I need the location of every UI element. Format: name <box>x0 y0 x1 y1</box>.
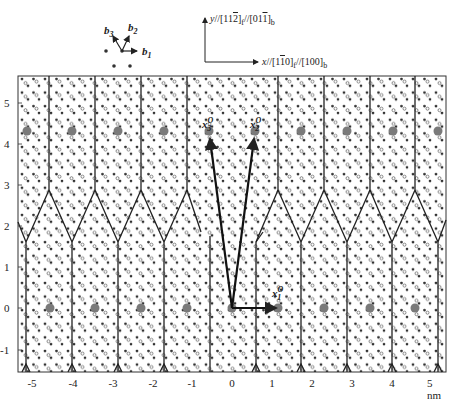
y-tick: 5 <box>4 97 10 109</box>
x3-label: xO3 <box>202 117 211 133</box>
b1-label: b1 <box>142 46 152 60</box>
y-tick: 3 <box>4 179 10 191</box>
y-tick: 2 <box>4 220 10 232</box>
atom-field <box>18 76 446 372</box>
x-tick: -3 <box>108 377 117 389</box>
x-tick: 3 <box>349 377 355 389</box>
x-tick: -2 <box>148 377 157 389</box>
x-tick: -1 <box>187 377 196 389</box>
x1-label: xO1 <box>272 286 281 302</box>
x-tick: 4 <box>389 377 395 389</box>
x-tick: 5 nm <box>427 377 449 401</box>
y-tick: 4 <box>4 138 10 150</box>
x2-label: xO2 <box>250 117 259 133</box>
x-tick: 2 <box>309 377 315 389</box>
x-tick: 1 <box>269 377 275 389</box>
x-tick: 0 <box>229 377 235 389</box>
y-direction-label: y//[112]f//[011]b <box>210 14 275 27</box>
b3-label: b3 <box>104 25 114 39</box>
y-tick: 1 <box>4 261 10 273</box>
b2-label: b2 <box>128 22 138 36</box>
x-tick: -5 <box>27 377 36 389</box>
y-tick: 0 <box>4 302 10 314</box>
x-direction-label: x//[110]f//[100]b <box>262 57 327 70</box>
basis-legend <box>104 36 137 68</box>
x-tick: -4 <box>68 377 77 389</box>
y-tick: -1 <box>0 344 9 356</box>
